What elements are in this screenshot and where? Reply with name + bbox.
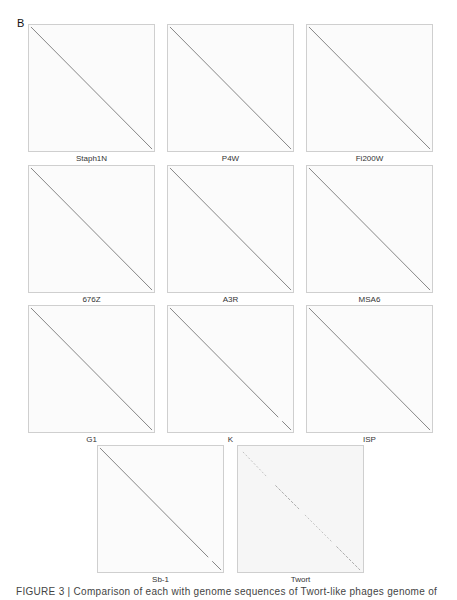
dotplot-label: Staph1N [28,154,155,163]
dotplot-g1 [28,305,155,433]
dotplot-p4w [167,24,294,152]
dotplot-label: 676Z [28,295,155,304]
dotplot-label: K [167,435,294,444]
dotplot-label: P4W [167,154,294,163]
panel-letter: B [17,17,24,29]
dotplot-isp [306,305,433,433]
dotplot-twort [237,445,364,573]
dotplot-a3r [167,165,294,293]
dotplot-fi200w [306,24,433,152]
dotplot-label: Sb-1 [97,575,224,584]
dotplot-label: ISP [306,435,433,444]
dotplot-676z [28,165,155,293]
dotplot-sb1 [97,445,224,573]
figure-caption: FIGURE 3 | Comparison of each with genom… [16,586,437,597]
dotplot-label: Twort [237,575,364,584]
dotplot-label: G1 [28,435,155,444]
dotplot-msa6 [306,165,433,293]
dotplot-k [167,305,294,433]
dotplot-label: Fi200W [306,154,433,163]
dotplot-staph1n [28,24,155,152]
dotplot-label: MSA6 [306,295,433,304]
dotplot-label: A3R [167,295,294,304]
